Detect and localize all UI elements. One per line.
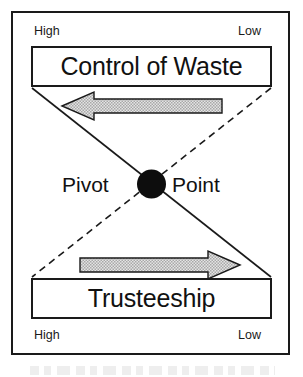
top-scale-right-label: Low xyxy=(238,25,261,38)
diagram-canvas: High Low Control of Waste Pivot Point Tr… xyxy=(0,0,303,377)
concept-box-trusteeship: Trusteeship xyxy=(31,278,272,319)
bottom-scale-left-label: High xyxy=(34,329,60,342)
concept-label-control-of-waste: Control of Waste xyxy=(60,54,242,79)
top-scale-left-label: High xyxy=(34,25,60,38)
concept-box-control-of-waste: Control of Waste xyxy=(31,46,272,87)
caption-ghost-strip xyxy=(30,366,275,375)
pivot-label-left: Pivot xyxy=(62,174,109,195)
pivot-label-right: Point xyxy=(172,174,220,195)
concept-label-trusteeship: Trusteeship xyxy=(88,286,216,311)
bottom-scale-right-label: Low xyxy=(238,329,261,342)
